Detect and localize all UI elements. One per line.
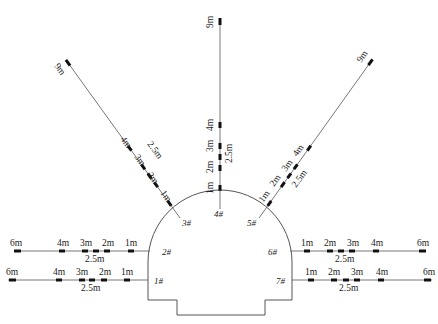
p4-2m: 2m xyxy=(205,160,215,173)
p7-2m: 2m xyxy=(328,267,341,277)
p6-3m: 3m xyxy=(347,238,360,248)
p1-2-5m: 2.5m xyxy=(81,283,101,293)
p5-9m: 9m xyxy=(355,48,371,64)
p3-2-5m: 2.5m xyxy=(145,139,165,161)
p7-2-5m: 2.5m xyxy=(339,283,359,293)
p1-6m: 6m xyxy=(6,267,19,277)
p6-6m: 6m xyxy=(417,238,430,248)
p1-4m: 4m xyxy=(53,267,66,277)
borehole-6: 1m 2m 3m 4m 6m 2.5m xyxy=(290,238,430,264)
p3-9m: 9m xyxy=(52,61,68,77)
point-6-label: 6# xyxy=(268,247,278,257)
p6-1m: 1m xyxy=(301,238,314,248)
p4-3m: 3m xyxy=(205,139,215,152)
p7-3m: 3m xyxy=(351,267,364,277)
point-5-label: 5# xyxy=(247,218,257,228)
p2-2-5m: 2.5m xyxy=(85,254,105,264)
p2-1m: 1m xyxy=(125,238,138,248)
borehole-1: 1m 2m 3m 4m 6m 2.5m xyxy=(6,267,148,293)
p4-4m: 4m xyxy=(205,118,215,131)
p3-4m: 4m xyxy=(118,134,134,150)
point-4-label: 4# xyxy=(214,209,224,219)
p4-9m: 9m xyxy=(205,15,215,28)
borehole-4: 1m 2m 3m 4m 9m 2.5m xyxy=(205,15,234,209)
p6-2-5m: 2.5m xyxy=(335,254,355,264)
p1-2m: 2m xyxy=(99,267,112,277)
p6-2m: 2m xyxy=(324,238,337,248)
point-1-label: 1# xyxy=(154,276,164,286)
p7-1m: 1m xyxy=(305,267,318,277)
p4-1m: 1m xyxy=(205,181,215,194)
p7-4m: 4m xyxy=(376,267,389,277)
tunnel-borehole-diagram: 1m 2m 3m 4m 6m 2.5m 1m 2m 3m 4m 6m 2.5m … xyxy=(0,0,438,324)
p1-3m: 3m xyxy=(76,267,89,277)
p6-4m: 4m xyxy=(371,238,384,248)
borehole-5: 1m 2m 3m 4m 9m 2.5m xyxy=(257,48,374,218)
p2-4m: 4m xyxy=(57,238,70,248)
p4-2-5m: 2.5m xyxy=(224,143,234,163)
p2-3m: 3m xyxy=(80,238,93,248)
p1-1m: 1m xyxy=(121,267,134,277)
p2-6m: 6m xyxy=(10,238,23,248)
borehole-7: 1m 2m 3m 4m 6m 2.5m xyxy=(292,267,436,293)
point-7-label: 7# xyxy=(276,276,286,286)
borehole-3: 1m 2m 3m 4m 9m 2.5m xyxy=(52,59,180,218)
point-2-label: 2# xyxy=(162,247,172,257)
p2-2m: 2m xyxy=(102,238,115,248)
borehole-2: 1m 2m 3m 4m 6m 2.5m xyxy=(10,238,150,264)
p7-6m: 6m xyxy=(423,267,436,277)
point-3-label: 3# xyxy=(181,218,192,228)
